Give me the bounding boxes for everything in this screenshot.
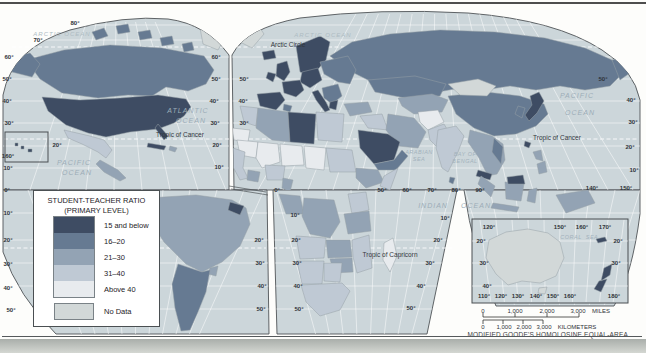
miles-scale-bar bbox=[483, 313, 579, 317]
legend-items: 15 and below16–2021–3031–40Above 40 bbox=[54, 217, 149, 297]
region-sudan bbox=[326, 148, 356, 172]
kilometers-scale-bar bbox=[483, 320, 543, 324]
legend-label: 15 and below bbox=[104, 221, 149, 230]
legend-label: Above 40 bbox=[104, 285, 136, 294]
legend-label: 21–30 bbox=[104, 253, 125, 262]
legend-row-0: 15 and below bbox=[54, 217, 149, 233]
legend-swatch-cat4 bbox=[54, 265, 94, 281]
legend-row-4: Above 40 bbox=[54, 281, 149, 297]
region-west-sahara bbox=[232, 128, 250, 142]
region-namibia bbox=[297, 261, 324, 284]
legend-swatch-cat5 bbox=[54, 281, 94, 297]
map-legend: STUDENT-TEACHER RATIO (PRIMARY LEVEL) 15… bbox=[33, 190, 160, 327]
legend-label: 31–40 bbox=[104, 269, 125, 278]
region-tanzania bbox=[344, 211, 371, 234]
australia-inset bbox=[472, 219, 628, 303]
region-nigeria bbox=[265, 165, 285, 180]
region-iceland bbox=[262, 50, 276, 60]
legend-label: 16–20 bbox=[104, 237, 125, 246]
region-egypt bbox=[316, 112, 344, 142]
legend-row-no-data: No Data bbox=[54, 303, 132, 320]
figure-bottom-border bbox=[2, 336, 642, 337]
legend-row-2: 21–30 bbox=[54, 249, 149, 265]
legend-label-no-data: No Data bbox=[104, 307, 132, 316]
page-edge-shadow bbox=[0, 339, 646, 353]
textbook-map-figure: STUDENT-TEACHER RATIO (PRIMARY LEVEL) 15… bbox=[0, 0, 646, 353]
region-zambia bbox=[326, 240, 352, 258]
legend-swatch-cat1 bbox=[54, 217, 94, 233]
legend-title-line1: STUDENT-TEACHER RATIO bbox=[34, 196, 159, 206]
legend-swatch-no-data bbox=[54, 303, 94, 320]
legend-swatch-cat3 bbox=[54, 249, 94, 265]
legend-swatch-cat2 bbox=[54, 233, 94, 249]
legend-row-1: 16–20 bbox=[54, 233, 149, 249]
region-kenya bbox=[348, 192, 369, 214]
region-niger bbox=[280, 144, 304, 166]
legend-title-line2: (PRIMARY LEVEL) bbox=[34, 206, 159, 216]
region-botswana bbox=[324, 263, 342, 282]
region-ghana bbox=[247, 170, 260, 182]
region-libya bbox=[288, 112, 316, 144]
region-chad bbox=[304, 146, 326, 170]
legend-row-3: 31–40 bbox=[54, 265, 149, 281]
legend-title: STUDENT-TEACHER RATIO (PRIMARY LEVEL) bbox=[34, 196, 159, 216]
region-borneo bbox=[505, 182, 524, 201]
scale-bars bbox=[483, 313, 579, 324]
region-angola bbox=[296, 236, 326, 259]
